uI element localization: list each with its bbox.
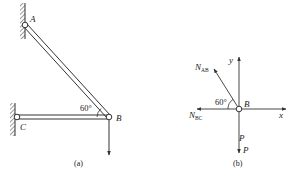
pin-c — [14, 114, 20, 120]
caption-b: (b) — [233, 159, 243, 168]
pin-b-fbd — [236, 106, 242, 112]
pin-a — [22, 22, 28, 28]
force-n-bc-label: NBC — [188, 110, 203, 121]
figure-a: A C B 60° (a) — [10, 3, 122, 168]
figure-b: y x B 60° NAB NBC P P (b) — [188, 55, 286, 168]
wall-support-c — [10, 103, 15, 136]
x-axis-label: x — [278, 110, 283, 120]
y-axis-label: y — [228, 55, 233, 65]
truss-diagram: A C B 60° (a) y x B 60° NAB NBC P P — [0, 0, 293, 181]
label-b: B — [116, 113, 122, 123]
angle-label-b: 60° — [215, 97, 227, 107]
angle-arc-b — [228, 100, 233, 110]
pin-b — [106, 114, 112, 120]
force-p-label-upper: P — [238, 133, 245, 143]
angle-label-a: 60° — [80, 103, 92, 113]
label-a: A — [29, 14, 36, 24]
caption-a: (a) — [74, 159, 83, 168]
force-p-label-lower: P — [242, 145, 249, 155]
label-c: C — [20, 122, 27, 132]
rod-bc — [17, 115, 109, 119]
rod-ab — [24, 24, 111, 119]
point-b-label: B — [244, 99, 250, 109]
force-n-ab-label: NAB — [194, 62, 209, 73]
wall-support-a — [20, 3, 25, 39]
